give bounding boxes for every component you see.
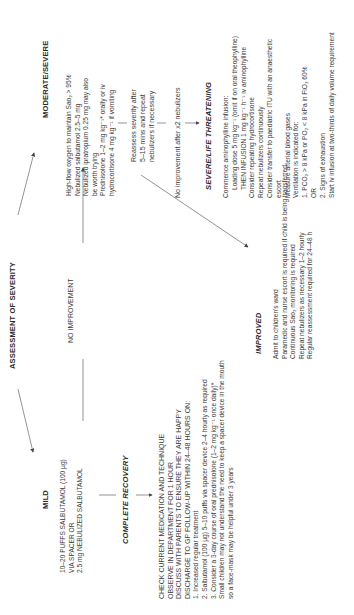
improved-heading: IMPROVED (254, 313, 263, 354)
severe-line: Repeat nebulizers continuously (257, 32, 266, 198)
complete-recovery-instructions: CHECK CURRENT MEDICATION AND TECHNIQUE O… (158, 360, 235, 599)
moderate-line: Nebulized ipratropium 0.25 mg may also (82, 75, 91, 197)
reassess-line: Reassess severity after (129, 89, 138, 162)
recovery-line: OBSERVE IN DEPARTMENT FOR 1 HOUR (167, 360, 176, 599)
assessment-of-severity-title: ASSESSMENT OF SEVERITY (8, 262, 17, 369)
recovery-line: 1. Increased regular treatment (192, 360, 201, 599)
severe-line: 1. PCO₂ > 8 kPa or PO₂ < 8 kPa in FiO₂ 6… (301, 32, 310, 198)
recovery-line: DISCHARGE TO GP FOLLOW-UP WITHIN 24–48 H… (184, 360, 193, 599)
recovery-line: Small children may not understand the ne… (218, 360, 227, 599)
severe-line: escort (275, 32, 284, 198)
severe-line: Measure arterial blood gases (284, 32, 293, 198)
reassess-instructions: Reassess severity after 5–15 mins and re… (129, 89, 156, 162)
mild-line: VIA SPACER OR (68, 459, 77, 573)
severe-line: Commence aminophylline infusion: (222, 32, 231, 198)
mild-instructions: 10–20 PUFFS SALBUTAMOL (100 µg) VIA SPAC… (59, 459, 85, 573)
severe-instructions: Commence aminophylline infusion: Loading… (222, 32, 336, 198)
moderate-severe-heading: MODERATE/SEVERE (41, 41, 50, 118)
severe-line: Start iv infusion at two-thirds of daily… (328, 32, 337, 198)
reassess-line: 5–15 mins and repeat (138, 89, 147, 162)
no-improvement-x2-label: No improvement after x2 nebulizers (174, 88, 183, 199)
recovery-line: so a face-mask may be helpful under 3 ye… (227, 360, 236, 599)
arrow-to-mild (18, 389, 33, 452)
moderate-line: hydrocortisone 4 mg kg⁻¹ if vomiting (108, 75, 117, 197)
no-improvement-label: NO IMPROVEMENT (67, 278, 76, 343)
moderate-line: be worth trying (91, 75, 100, 197)
complete-recovery-heading: COMPLETE RECOVERY (121, 456, 130, 544)
severe-line: THEN INFUSION 1 mg kg⁻¹ h⁻¹ iv aminophyl… (240, 32, 249, 198)
severe-heading: SEVERE/LIFE THREATENING (204, 82, 213, 190)
moderate-line: Prednisolone 1–2 mg kg⁻¹* orally or iv (99, 75, 108, 197)
moderate-line: High-flow oxygen to maintain Sao₂ > 95% (65, 75, 74, 197)
severe-line: Consider transfer to paediatric ITU with… (266, 32, 275, 198)
severe-line: OR (310, 32, 319, 198)
asthma-management-flowchart: ASSESSMENT OF SEVERITY MODERATE/SEVERE H… (0, 0, 354, 615)
moderate-severe-instructions: High-flow oxygen to maintain Sao₂ > 95% … (65, 75, 117, 197)
recovery-line: CHECK CURRENT MEDICATION AND TECHNIQUE (158, 360, 167, 599)
recovery-line: 2. Salbutamol (100 µg) 5–10 puffs via sp… (201, 360, 210, 599)
recovery-line: 3. Consider a 3-day course of oral predn… (210, 360, 219, 599)
severe-line: Loading dose 5 mg kg⁻¹ (omit if on oral … (231, 32, 240, 198)
reassess-line: nebulizers if necessary (147, 89, 156, 162)
mild-line: 10–20 PUFFS SALBUTAMOL (100 µg) (59, 459, 68, 573)
severe-line: Ventilation is indicated for: (292, 32, 301, 198)
moderate-line: Nebulized salbutamol 2.5–5 mg (74, 75, 83, 197)
severe-line: 2. Signs of exhaustion (319, 32, 328, 198)
mild-line: 2.5 mg NEBULIZED SALBUTAMOL (76, 459, 85, 573)
severe-line: Consider repeating hydrocortisone (248, 32, 257, 198)
mild-heading: MILD (41, 490, 50, 509)
recovery-line: DISCUSS WITH PARENTS TO ENSURE THEY ARE … (175, 360, 184, 599)
arrow-to-moderate (18, 153, 34, 215)
